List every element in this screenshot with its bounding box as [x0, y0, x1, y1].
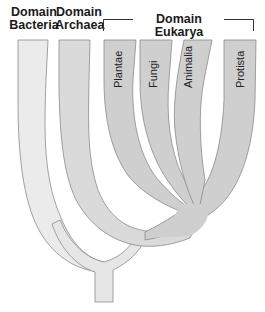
eukarya-junction [150, 204, 208, 238]
tree-of-life-diagram: Domain Bacteria Domain Archaea Domain Eu… [0, 0, 265, 312]
eukarya-bracket [104, 20, 254, 32]
label-protista: Protista [234, 50, 246, 88]
label-fungi: Fungi [147, 60, 159, 88]
label-plantae: Plantae [112, 51, 124, 88]
label-animalia: Animalia [182, 45, 194, 88]
tree-graphic: Plantae Fungi Animalia Protista [0, 0, 265, 312]
